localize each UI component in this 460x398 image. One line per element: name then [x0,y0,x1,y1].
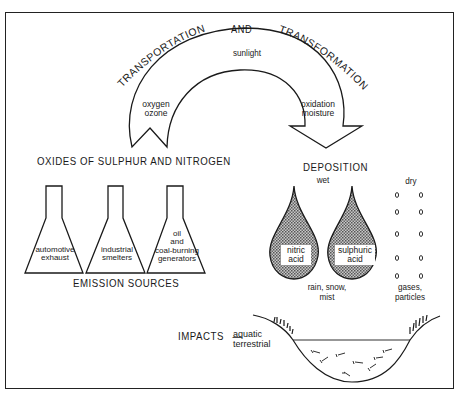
source-line: exhaust [26,254,84,262]
dry-caption: gases, particles [388,283,433,303]
caption-line: particles [388,293,433,303]
impact-types: aquatic terrestrial [233,330,271,350]
impacts-heading: IMPACTS [178,330,224,342]
sulphuric-acid-label: sulphuric acid [335,245,375,265]
emission-sources-label: EMISSION SOURCES [73,278,179,289]
sunlight-label: sunlight [225,49,270,58]
left-factors: oxygen ozone [138,100,174,118]
ozone-label: ozone [138,109,174,118]
moisture-label: moisture [295,109,341,118]
right-factors: oxidation moisture [295,100,341,118]
acid-line: acid [337,255,373,264]
source-line: generators [147,255,207,263]
dry-particles-icon [395,193,422,279]
nitric-acid-label: nitric acid [281,245,311,265]
lake-icon [253,315,440,382]
deposition-heading: DEPOSITION [303,162,368,173]
wet-label: wet [310,176,337,185]
source-automotive: automotive exhaust [26,246,84,263]
title-center: AND [231,24,252,35]
acid-line: acid [283,255,309,264]
acid-drop-icons [270,186,377,279]
source-industrial: industrial smelters [88,246,146,263]
source-generators: oil and coal-burning generators [147,230,207,264]
caption-line: mist [298,293,356,303]
terrestrial-label: terrestrial [233,340,271,350]
drop-icon [270,186,319,279]
vegetation-icon [274,315,427,334]
emissions-heading: OXIDES OF SULPHUR AND NITROGEN [37,156,231,167]
source-line: smelters [88,254,146,262]
wet-caption: rain, snow, mist [298,283,356,303]
fish-icons [311,349,392,376]
dry-label: dry [398,177,425,186]
drop-icon [328,186,377,279]
